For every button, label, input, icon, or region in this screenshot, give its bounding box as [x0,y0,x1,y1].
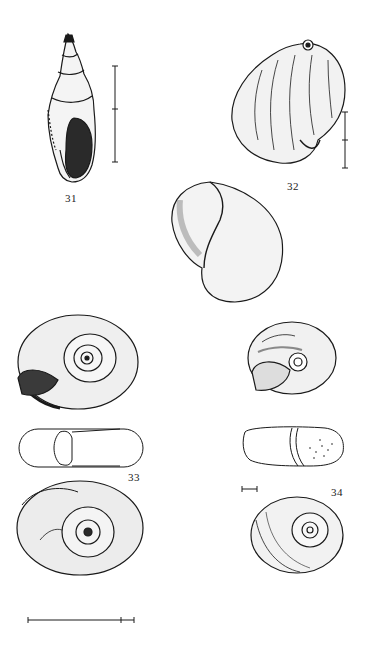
shell-34-apical-drawing [0,0,365,651]
